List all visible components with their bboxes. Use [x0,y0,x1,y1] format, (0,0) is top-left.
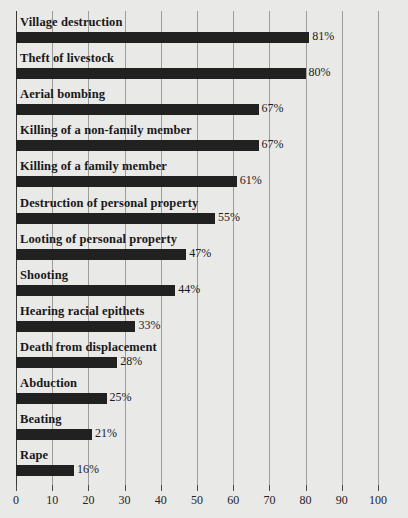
bar-row: Killing of a family member61% [16,159,378,195]
bar-category-label: Aerial bombing [20,87,105,102]
bar-value-label: 81% [312,29,334,44]
bar-row: Aerial bombing67% [16,87,378,123]
x-tick-label-20: 20 [68,493,108,508]
bar-row: Looting of personal property47% [16,232,378,268]
plot-area: 0102030405060708090100 Village destructi… [16,11,378,485]
bar-row: Beating21% [16,412,378,448]
x-tick-label-100: 100 [358,493,398,508]
bar [16,68,306,79]
bar-category-label: Killing of a non-family member [20,123,192,138]
x-tick-label-80: 80 [286,493,326,508]
bar-value-label: 16% [77,462,99,477]
tick-mark-0 [16,485,17,491]
bar-value-label: 80% [309,65,331,80]
bar-row: Death from displacement28% [16,340,378,376]
bar-value-label: 55% [218,210,240,225]
bar-category-label: Death from displacement [20,340,157,355]
bar-value-label: 61% [240,173,262,188]
x-tick-label-0: 0 [0,493,36,508]
bar-row: Hearing racial epithets33% [16,304,378,340]
bar-value-label: 44% [178,282,200,297]
bar-value-label: 28% [120,354,142,369]
bar-category-label: Hearing racial epithets [20,304,145,319]
bar-category-label: Beating [20,412,62,427]
x-tick-label-70: 70 [249,493,289,508]
bar-category-label: Rape [20,448,48,463]
bar-category-label: Shooting [20,268,68,283]
bar [16,429,92,440]
tick-mark-40 [161,485,162,491]
bar-value-label: 67% [262,101,284,116]
bar-value-label: 25% [110,390,132,405]
bar [16,176,237,187]
x-tick-label-50: 50 [177,493,217,508]
bar [16,465,74,476]
bar-category-label: Destruction of personal property [20,196,198,211]
bar-row: Abduction25% [16,376,378,412]
tick-mark-100 [378,485,379,491]
tick-mark-60 [233,485,234,491]
tick-mark-30 [125,485,126,491]
bar [16,213,215,224]
bar-row: Killing of a non-family member67% [16,123,378,159]
bar [16,249,186,260]
bar-value-label: 33% [138,318,160,333]
bar-category-label: Killing of a family member [20,159,167,174]
x-tick-label-30: 30 [105,493,145,508]
bar [16,321,135,332]
gridline-100 [378,11,379,485]
tick-mark-50 [197,485,198,491]
bar [16,357,117,368]
chart-page: 0102030405060708090100 Village destructi… [0,0,408,518]
bar-row: Shooting44% [16,268,378,304]
cropped-title-strip [0,0,408,9]
tick-mark-90 [342,485,343,491]
bar-value-label: 47% [189,246,211,261]
tick-mark-70 [269,485,270,491]
bar-category-label: Abduction [20,376,77,391]
bar [16,140,259,151]
tick-mark-80 [306,485,307,491]
tick-mark-10 [52,485,53,491]
x-tick-label-10: 10 [32,493,72,508]
bar-row: Theft of livestock80% [16,51,378,87]
bar-row: Village destruction81% [16,15,378,51]
bar-category-label: Village destruction [20,15,122,30]
bar [16,104,259,115]
bar-value-label: 21% [95,426,117,441]
x-tick-label-90: 90 [322,493,362,508]
bar-row: Rape16% [16,448,378,484]
bar-category-label: Theft of livestock [20,51,114,66]
tick-mark-20 [88,485,89,491]
x-tick-label-60: 60 [213,493,253,508]
bar-category-label: Looting of personal property [20,232,177,247]
bar [16,393,107,404]
bar-row: Destruction of personal property55% [16,196,378,232]
bar [16,32,309,43]
bar [16,285,175,296]
x-tick-label-40: 40 [141,493,181,508]
bar-value-label: 67% [262,137,284,152]
